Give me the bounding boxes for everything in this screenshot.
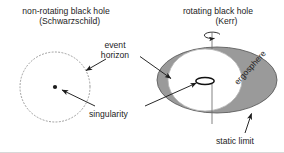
arrow-static-limit-to-ergosphere [245, 114, 252, 134]
schwarzschild-diagram [20, 52, 90, 122]
kerr-diagram [157, 32, 277, 124]
arrow-singularity-to-schwarzschild [62, 90, 95, 106]
title-kerr: rotating black hole (Kerr) [158, 6, 278, 26]
arrow-event-horizon-to-schwarzschild [86, 59, 106, 71]
schwarzschild-singularity-dot [53, 85, 57, 89]
label-singularity: singularity [89, 109, 128, 119]
label-static-limit: static limit [216, 136, 254, 146]
title-schwarzschild: non-rotating black hole (Schwarzschild) [6, 6, 126, 26]
black-hole-comparison-figure: non-rotating black hole (Schwarzschild) … [0, 0, 284, 153]
kerr-ring-singularity [196, 78, 214, 85]
label-event-horizon: event horizon [92, 40, 138, 60]
